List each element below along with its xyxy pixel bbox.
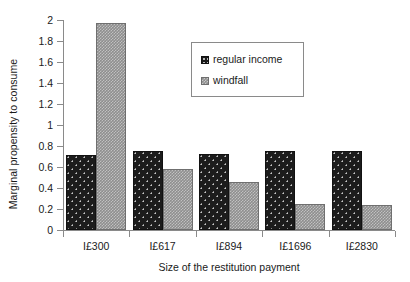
bar-windfall-3 bbox=[295, 204, 325, 230]
bar-windfall-4 bbox=[362, 205, 392, 230]
legend-label: windfall bbox=[213, 75, 248, 86]
x-axis-line bbox=[57, 230, 395, 231]
y-axis-tick-label: 2 bbox=[13, 15, 53, 25]
x-axis-tick bbox=[395, 231, 396, 237]
x-axis-category-label: I£1696 bbox=[262, 240, 328, 252]
bar-regular-income-0 bbox=[66, 155, 96, 230]
x-axis-category-label: I£617 bbox=[129, 240, 195, 252]
y-axis-tick-label: 0.8 bbox=[13, 141, 53, 151]
bar-regular-income-2 bbox=[199, 154, 229, 230]
y-axis-tick-label: 0.2 bbox=[13, 204, 53, 214]
bar-windfall-0 bbox=[96, 23, 126, 230]
x-axis-category-label: I£300 bbox=[63, 240, 129, 252]
y-axis-tick-label: 1 bbox=[13, 120, 53, 130]
bar-chart: Marginal propensity to consume 21.81.61.… bbox=[0, 0, 410, 282]
legend-label: regular income bbox=[213, 54, 282, 65]
legend-item-windfall: windfall bbox=[201, 74, 248, 87]
x-axis-tick bbox=[129, 231, 130, 237]
bar-regular-income-3 bbox=[265, 151, 295, 230]
legend-swatch-icon-regular-income bbox=[201, 56, 209, 64]
y-axis-tick-label: 1.8 bbox=[13, 36, 53, 46]
y-axis-tick-label: 0.6 bbox=[13, 162, 53, 172]
x-axis-category-label: I£2830 bbox=[329, 240, 395, 252]
bar-regular-income-1 bbox=[133, 151, 163, 230]
y-axis-tick-label: 0.4 bbox=[13, 183, 53, 193]
y-axis-tick-label: 1.4 bbox=[13, 78, 53, 88]
bar-windfall-2 bbox=[229, 182, 259, 230]
x-axis-tick bbox=[262, 231, 263, 237]
legend-item-regular-income: regular income bbox=[201, 53, 282, 66]
y-axis-tick-label: 1.6 bbox=[13, 57, 53, 67]
x-axis-tick bbox=[196, 231, 197, 237]
y-axis-title: Marginal propensity to consume bbox=[4, 18, 22, 250]
x-axis-title: Size of the restitution payment bbox=[63, 261, 395, 273]
x-axis-tick bbox=[63, 231, 64, 237]
x-axis-category-label: I£894 bbox=[196, 240, 262, 252]
bar-windfall-1 bbox=[163, 169, 193, 230]
x-axis-tick bbox=[329, 231, 330, 237]
legend-swatch-icon-windfall bbox=[201, 77, 209, 85]
y-axis-tick-label: 1.2 bbox=[13, 99, 53, 109]
legend: regular income windfall bbox=[191, 42, 304, 97]
y-axis-tick-label: 0 bbox=[13, 225, 53, 235]
bar-regular-income-4 bbox=[332, 151, 362, 230]
